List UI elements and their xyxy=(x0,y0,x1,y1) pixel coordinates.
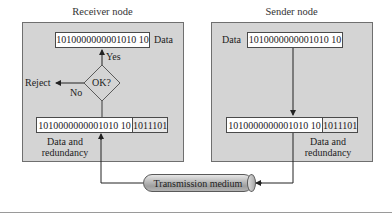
sender-combined-redundancy: 1011101 xyxy=(323,118,357,132)
receiver-combined-data: 1010000000001010 10 xyxy=(37,118,133,132)
receiver-label-line2: redundancy xyxy=(34,147,96,158)
sender-label-line1: Data and xyxy=(296,136,360,147)
sender-node-title: Sender node xyxy=(211,6,372,17)
reject-label: Reject xyxy=(25,77,51,88)
sender-data-redundancy-box: 1010000000001010 10 1011101 xyxy=(226,117,358,133)
sender-data-box: 1010000000001010 10 xyxy=(247,32,343,48)
decision-yes-label: Yes xyxy=(106,51,121,62)
receiver-data-box: 1010000000001010 10 xyxy=(55,32,150,48)
sender-combined-data: 1010000000001010 10 xyxy=(227,118,323,132)
receiver-node-title: Receiver node xyxy=(22,6,183,17)
receiver-data-label: Data xyxy=(154,34,173,45)
receiver-data-redundancy-label: Data and redundancy xyxy=(34,136,96,158)
sender-label-line2: redundancy xyxy=(296,147,360,158)
transmission-medium-pipe: Transmission medium xyxy=(143,174,253,192)
decision-ok-label: OK? xyxy=(92,77,111,88)
sender-data-label: Data xyxy=(222,34,241,45)
receiver-label-line1: Data and xyxy=(34,136,96,147)
sender-data-redundancy-label: Data and redundancy xyxy=(296,136,360,158)
bottom-divider xyxy=(0,212,392,213)
pipe-end-cap xyxy=(247,174,256,192)
receiver-combined-redundancy: 1011101 xyxy=(133,118,167,132)
receiver-data-redundancy-box: 1010000000001010 10 1011101 xyxy=(36,117,168,133)
decision-no-label: No xyxy=(70,87,82,98)
